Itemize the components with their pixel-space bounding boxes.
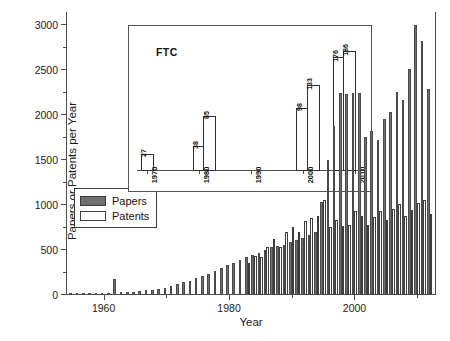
bar-papers — [120, 292, 123, 295]
bar-papers — [82, 293, 85, 295]
bar-papers — [289, 242, 292, 295]
bar-papers — [69, 293, 72, 295]
bar-papers — [220, 268, 223, 295]
bar-patents — [298, 232, 301, 295]
legend-item-patents: Patents — [80, 208, 149, 223]
x-tick — [292, 295, 293, 298]
bar-papers — [170, 286, 173, 295]
bar-patents — [342, 226, 345, 295]
main-plot-area: 050010001500200025003000 196019802000 Pa… — [66, 12, 436, 295]
bar-patents — [379, 211, 382, 295]
bar-papers — [264, 250, 267, 295]
bar-papers — [239, 260, 242, 295]
bar-papers — [270, 247, 273, 295]
bar-papers — [283, 245, 286, 295]
x-tick — [354, 295, 355, 300]
y-tick — [61, 69, 66, 70]
bar-papers — [295, 240, 298, 295]
y-tick — [63, 182, 66, 183]
y-tick-label: 500 — [40, 244, 58, 256]
inset-x-tick-label: 1970 — [150, 167, 159, 184]
y-tick — [63, 227, 66, 228]
bar-papers — [414, 25, 417, 295]
bar-patents — [335, 220, 338, 295]
bar-patents — [404, 216, 407, 295]
bar-papers — [226, 265, 229, 295]
x-axis-label: Year — [66, 316, 436, 328]
y-axis-line — [66, 12, 67, 295]
bar-papers — [276, 246, 279, 295]
bar-papers — [358, 93, 361, 295]
bar-patents — [292, 227, 295, 295]
bar-patents — [392, 209, 395, 295]
inset-x-tick — [199, 171, 200, 174]
bar-papers — [352, 93, 355, 295]
bar-papers — [164, 288, 167, 295]
bar-patents — [323, 200, 326, 295]
legend: Papers Patents — [74, 188, 157, 228]
y-tick — [61, 249, 66, 250]
right-spine — [435, 12, 436, 295]
bar-patents — [329, 227, 332, 295]
bar-papers — [101, 293, 104, 295]
y-tick — [61, 204, 66, 205]
bar-papers — [126, 292, 129, 295]
bar-papers — [145, 290, 148, 295]
bar-patents — [398, 204, 401, 295]
inset-x-tick — [355, 171, 356, 174]
inset-bar-value-label: 38 — [192, 142, 199, 150]
bar-papers — [377, 140, 380, 295]
x-tick — [166, 295, 167, 298]
bar-papers — [370, 131, 373, 295]
bar-patents — [361, 216, 364, 295]
bar-papers — [182, 282, 185, 295]
legend-item-papers: Papers — [80, 193, 149, 208]
inset-bar-value-label: 186 — [342, 44, 349, 56]
inset-x-tick-label: 2000 — [306, 167, 315, 184]
inset-x-tick — [251, 171, 252, 174]
bar-papers — [396, 92, 399, 295]
x-tick — [417, 295, 418, 298]
bar-patents — [411, 210, 414, 295]
bar-patents — [430, 214, 433, 295]
figure: Papers or Patents per Year Year 05001000… — [0, 0, 450, 341]
x-tick-label: 1980 — [217, 302, 240, 314]
y-tick-label: 3000 — [35, 19, 58, 31]
bar-patents — [285, 232, 288, 295]
bar-patents — [310, 218, 313, 295]
bar-papers — [157, 289, 160, 295]
bar-patents — [273, 239, 276, 295]
bar-patents — [373, 217, 376, 295]
bar-papers — [421, 41, 424, 295]
bar-patents — [279, 247, 282, 295]
bar-patents — [254, 256, 257, 295]
y-tick-label: 2000 — [35, 109, 58, 121]
bar-papers — [320, 202, 323, 295]
legend-swatch-patents — [80, 211, 106, 221]
bar-patents — [348, 225, 351, 295]
bar-papers — [427, 89, 430, 295]
bar-papers — [113, 279, 116, 295]
legend-label-patents: Patents — [112, 210, 149, 222]
bar-patents — [423, 200, 426, 295]
bar-papers — [258, 253, 261, 295]
bar-patents — [317, 216, 320, 295]
y-tick-label: 1000 — [35, 199, 58, 211]
bar-papers — [245, 257, 248, 295]
bar-papers — [88, 293, 91, 295]
x-tick — [229, 295, 230, 300]
bar-papers — [201, 276, 204, 295]
inset-bar-value-label: 176 — [332, 50, 339, 62]
bar-papers — [314, 232, 317, 295]
x-tick-label: 1960 — [92, 302, 115, 314]
bar-papers — [95, 293, 98, 295]
bar-papers — [364, 137, 367, 295]
bar-papers — [176, 284, 179, 295]
inset-bar: 133 — [307, 85, 320, 171]
y-tick-label: 2500 — [35, 64, 58, 76]
legend-label-papers: Papers — [112, 195, 147, 207]
bar-patents — [260, 257, 263, 295]
bar-papers — [214, 271, 217, 295]
y-tick — [61, 24, 66, 25]
bar-patents — [367, 225, 370, 295]
